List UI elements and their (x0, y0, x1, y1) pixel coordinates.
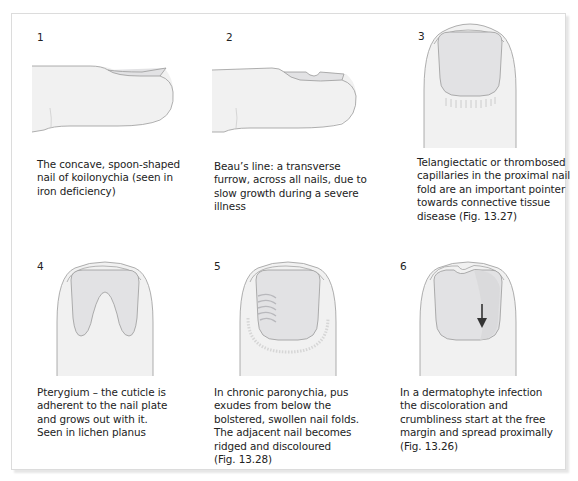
panel-caption: Beau’s line: a transverse furrow, across… (214, 160, 367, 214)
chronic-paronychia-illustration (238, 258, 338, 376)
panel-number: 6 (400, 260, 407, 272)
panel-caption: Telangiectatic or thrombosed capillaries… (417, 156, 570, 223)
panel-caption: In chronic paronychia, pus exudes from b… (214, 386, 359, 466)
panel-number: 1 (37, 31, 44, 43)
panel-caption: The concave, spoon-shaped nail of koilon… (37, 158, 180, 198)
nailfold-capillaries-illustration (420, 20, 520, 148)
koilonychia-illustration (30, 62, 180, 134)
pterygium-illustration (55, 258, 155, 376)
panel-caption: In a dermatophyte infection the discolor… (400, 386, 553, 453)
panel-caption: Pterygium – the cuticle is adherent to t… (37, 386, 167, 440)
beaus-line-illustration (210, 66, 360, 138)
panel-number: 4 (37, 260, 44, 272)
dermatophyte-infection-illustration (418, 258, 518, 376)
panel-number: 5 (214, 260, 221, 272)
panel-number: 2 (226, 31, 233, 43)
